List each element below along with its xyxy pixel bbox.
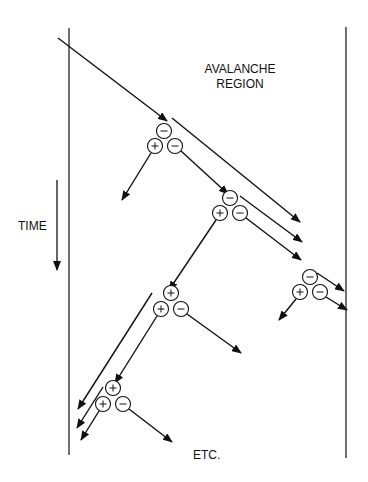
trajectory-arrow: [279, 299, 296, 320]
particle-trajectories: [58, 38, 347, 442]
electron-icon: [223, 191, 238, 206]
trajectory-arrow: [246, 218, 301, 260]
positive-ion-icon: [164, 286, 179, 301]
ionization-clusters: [96, 124, 328, 412]
cluster-c5: [96, 381, 131, 412]
trajectory-arrow: [122, 153, 151, 200]
positive-ion-icon: [96, 397, 111, 412]
region-label-line2: REGION: [190, 77, 290, 92]
trajectory-arrow: [129, 409, 172, 442]
electron-icon: [313, 285, 328, 300]
cluster-c3: [293, 270, 328, 300]
electron-icon: [174, 302, 189, 317]
positive-ion-icon: [106, 381, 121, 396]
electron-icon: [157, 124, 172, 139]
electron-icon: [303, 270, 318, 285]
trajectory-arrow: [115, 316, 157, 383]
cluster-c1: [148, 124, 183, 154]
trajectory-arrow: [326, 297, 347, 310]
region-label-line1: AVALANCHE: [190, 62, 290, 77]
trajectory-arrow: [58, 38, 167, 121]
electron-icon: [116, 397, 131, 412]
electron-icon: [168, 139, 183, 154]
avalanche-diagram: [0, 0, 368, 482]
cluster-c2: [213, 191, 248, 221]
etc-label: ETC.: [193, 448, 220, 463]
electron-icon: [233, 206, 248, 221]
positive-ion-icon: [148, 139, 163, 154]
trajectory-arrow: [169, 220, 216, 290]
trajectory-arrow: [81, 411, 99, 440]
trajectory-arrow: [187, 314, 241, 353]
positive-ion-icon: [154, 302, 169, 317]
trajectory-arrow: [240, 196, 302, 242]
positive-ion-icon: [293, 285, 308, 300]
positive-ion-icon: [213, 206, 228, 221]
cluster-c4: [154, 286, 189, 317]
avalanche-region-label: AVALANCHE REGION: [190, 62, 290, 92]
time-label: TIME: [18, 219, 47, 234]
